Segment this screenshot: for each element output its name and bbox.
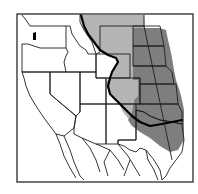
map-svg bbox=[0, 0, 198, 194]
range-map bbox=[0, 0, 198, 194]
puget-sound-mark bbox=[33, 32, 36, 40]
